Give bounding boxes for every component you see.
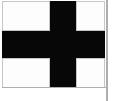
flag-cross-vertical-arm: [50, 1, 76, 88]
flag-quadrant-bottom-left: [2, 58, 50, 88]
flag-quadrant-top-right: [76, 1, 105, 31]
flagpole-line: [106, 0, 108, 101]
flag-image-canvas: [0, 0, 124, 101]
flag-quadrant-top-left: [2, 1, 50, 31]
flag-bottom-edge: [2, 87, 106, 88]
flag-quadrant-bottom-right: [76, 58, 105, 88]
